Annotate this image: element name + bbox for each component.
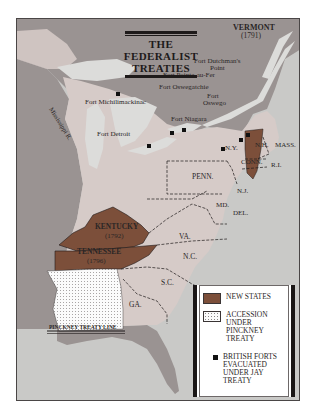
fort-square-icon — [213, 355, 218, 360]
fort-marker-niagara — [170, 131, 174, 135]
fort-label-detroit: Fort Detroit — [97, 130, 130, 138]
title-line-1: THE — [117, 39, 205, 50]
tennessee-year: (1796) — [87, 257, 106, 265]
nh-label: N.H. — [255, 141, 269, 149]
legend-item-british-forts: BRITISH FORTS EVACUATED UNDER JAY TREATY — [203, 353, 277, 385]
fort-marker-oswegatchie — [221, 147, 225, 151]
map-frame: Mississippi R. VERMONT (1791) N.H. MASS.… — [16, 18, 300, 401]
fort-marker-michilimackinac — [116, 92, 120, 96]
vermont-year: (1791) — [241, 31, 261, 40]
new-states-swatch — [203, 293, 221, 304]
tennessee-label: TENNESSEE — [77, 247, 121, 256]
fort-marker-dutchmans-point — [246, 133, 250, 137]
map-title: THE FEDERALIST TREATIES — [117, 31, 205, 78]
title-rule-bottom — [125, 75, 197, 78]
nc-label: N.C. — [183, 252, 197, 261]
legend-item-accession: ACCESSION UNDER PINCKNEY TREATY — [203, 311, 268, 343]
pinckney-line-label: PINCKNEY TREATY LINE — [49, 324, 117, 330]
mass-label: MASS. — [275, 141, 296, 149]
title-rule-top — [125, 31, 197, 34]
legend-label-accession: ACCESSION UNDER PINCKNEY TREATY — [226, 311, 268, 343]
legend-label-british-forts: BRITISH FORTS EVACUATED UNDER JAY TREATY — [223, 353, 277, 385]
title-rule-top-thin — [125, 35, 197, 36]
sc-label: S.C. — [161, 278, 174, 287]
fort-label-michilimackinac: Fort Michilimackinac — [85, 98, 146, 106]
fort-label-oswego-2: Oswego — [203, 99, 226, 107]
fort-label-niagara: Fort Niagara — [171, 115, 207, 123]
ga-label: GA. — [129, 300, 142, 309]
pinckney-cession-shape — [47, 269, 123, 331]
map-legend: NEW STATES ACCESSION UNDER PINCKNEY TREA… — [193, 285, 295, 397]
legend-item-new-states: NEW STATES — [203, 293, 271, 304]
del-label: DEL. — [233, 209, 249, 217]
conn-label: CONN. — [241, 158, 263, 166]
kentucky-label: KENTUCKY — [95, 222, 139, 231]
penn-label: PENN. — [192, 172, 214, 181]
title-line-2: FEDERALIST — [117, 50, 205, 62]
kentucky-year: (1792) — [105, 232, 124, 240]
fort-marker-oswego — [182, 128, 186, 132]
florida — [57, 325, 179, 394]
fort-marker-pointe-au-fer — [239, 138, 243, 142]
accession-swatch — [203, 311, 221, 322]
fort-label-oswegatchie: Fort Oswegatchie — [159, 83, 209, 91]
nj-label: N.J. — [237, 187, 249, 195]
md-label: MD. — [216, 201, 229, 209]
title-line-3: TREATIES — [117, 62, 205, 74]
va-label: VA. — [179, 232, 191, 241]
fort-marker-detroit — [147, 144, 151, 148]
ny-label: N.Y. — [225, 144, 238, 152]
legend-label-new-states: NEW STATES — [226, 293, 271, 301]
ri-label: R.I. — [271, 161, 282, 169]
